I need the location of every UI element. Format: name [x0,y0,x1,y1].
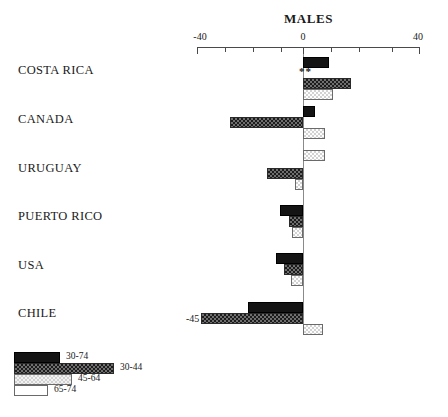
legend-label-65-74: 65-74 [54,384,76,394]
category-label-usa: USA [18,258,44,273]
chart-root: MALES -40 0 40 COSTA RICA CANADA URUGUAY… [0,0,448,417]
legend-label-30-44: 30-44 [120,362,142,372]
bar-canada-45-64 [230,117,303,128]
annotation-costa-rica-stars: ** [299,65,312,77]
bar-chile-30-44 [248,302,303,313]
axis-label-center: 0 [283,31,323,42]
bar-chile-65-74 [303,324,323,335]
x-axis-line [197,47,420,48]
bar-usa-30-44 [276,253,303,264]
axis-tick-20 [359,47,360,52]
category-label-chile: CHILE [18,306,57,321]
axis-tick--30 [225,47,226,52]
bar-canada-65-74 [303,128,325,139]
axis-tick--40 [197,47,198,54]
axis-tick--20 [253,47,254,52]
bar-puerto-rico-30-44 [280,205,303,216]
bar-uruguay-65-74 [303,150,325,161]
bar-chile-45-64 [201,313,303,324]
axis-label-right: 40 [398,31,438,42]
axis-label-left: -40 [180,31,220,42]
category-label-puerto-rico: PUERTO RICO [18,209,102,224]
bar-costa-rica-45-64 [303,78,351,89]
legend-label-45-64: 45-64 [78,373,100,383]
bar-uruguay-65-74-b [295,179,303,190]
bar-usa-45-64 [284,264,303,275]
legend-item-45-64: 45-64 [14,374,164,385]
bar-uruguay-45-64 [267,168,303,179]
legend-label-30-74: 30-74 [66,351,88,361]
category-label-costa-rica: COSTA RICA [18,63,94,78]
axis-tick-30 [392,47,393,52]
legend-swatch-30-74 [14,352,60,363]
bar-canada-30-44 [303,106,315,117]
axis-tick-40 [419,47,420,54]
axis-tick--10 [281,47,282,52]
legend-item-30-44: 30-44 [14,363,194,374]
bar-costa-rica-65-74 [303,89,333,100]
category-label-uruguay: URUGUAY [18,161,82,176]
axis-tick-0 [303,47,304,54]
bar-puerto-rico-45-64 [289,216,303,227]
bar-usa-65-74 [291,275,303,286]
bar-puerto-rico-65-74 [292,227,303,238]
legend-swatch-65-74 [14,385,48,396]
chart-title: MALES [197,11,420,27]
legend-item-65-74: 65-74 [14,385,164,396]
axis-tick-10 [331,47,332,52]
annotation-chile-value: -45 [186,313,199,324]
category-label-canada: CANADA [18,112,74,127]
